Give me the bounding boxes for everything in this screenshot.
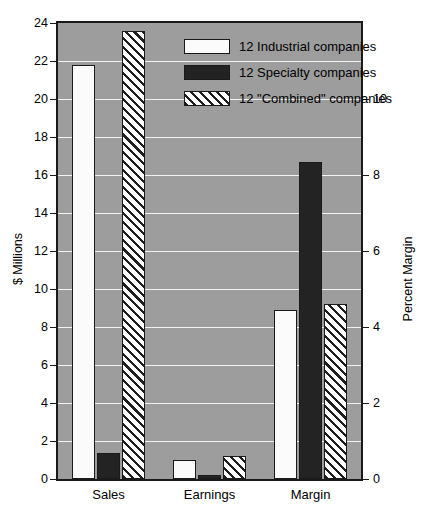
left-axis-tick-label: 2 <box>41 434 48 448</box>
right-axis-tick <box>363 251 369 252</box>
left-axis-tick-label: 24 <box>34 16 48 30</box>
category-label-margin: Margin <box>261 487 361 502</box>
left-axis-tick <box>50 327 56 328</box>
category-label-sales: Sales <box>59 487 159 502</box>
legend-swatch-specialty <box>184 65 230 80</box>
left-axis-tick-label: 4 <box>41 396 48 410</box>
right-axis-tick <box>363 479 369 480</box>
right-axis-tick-label: 2 <box>373 396 380 410</box>
left-axis-tick-label: 6 <box>41 358 48 372</box>
bar-chart: 024681012141618202224 0246810 $ Millions… <box>0 0 427 527</box>
legend-item-specialty: 12 Specialty companies <box>184 62 392 83</box>
bar-earnings-combined <box>223 456 246 479</box>
bar-sales-combined <box>122 31 145 479</box>
legend-label-specialty: 12 Specialty companies <box>239 65 376 80</box>
left-axis-tick <box>50 289 56 290</box>
left-axis-tick <box>50 137 56 138</box>
right-axis-title: Percent Margin <box>401 219 415 339</box>
legend-item-industrial: 12 Industrial companies <box>184 36 392 57</box>
chart-legend: 12 Industrial companies12 Specialty comp… <box>184 36 392 114</box>
right-axis-tick <box>363 403 369 404</box>
bar-earnings-industrial <box>173 460 196 479</box>
left-axis-tick-label: 22 <box>34 54 48 68</box>
legend-label-combined: 12 "Combined" companies <box>239 91 392 106</box>
left-axis-tick <box>50 99 56 100</box>
left-axis-title: $ Millions <box>11 199 25 319</box>
right-axis-tick <box>363 327 369 328</box>
right-axis-tick-label: 4 <box>373 320 380 334</box>
bar-earnings-specialty <box>198 475 221 479</box>
bar-margin-combined <box>324 304 347 479</box>
bar-margin-industrial <box>274 310 297 479</box>
left-axis-tick-label: 20 <box>34 92 48 106</box>
left-axis-tick-label: 10 <box>34 282 48 296</box>
left-axis-tick <box>50 213 56 214</box>
left-axis-tick <box>50 251 56 252</box>
left-axis-tick <box>50 441 56 442</box>
legend-label-industrial: 12 Industrial companies <box>239 39 376 54</box>
left-axis-tick <box>50 479 56 480</box>
bar-margin-specialty <box>299 162 322 479</box>
right-axis-tick-label: 6 <box>373 244 380 258</box>
bar-sales-industrial <box>72 65 95 479</box>
legend-swatch-combined <box>184 91 230 106</box>
left-axis-tick-label: 8 <box>41 320 48 334</box>
left-axis-tick <box>50 61 56 62</box>
left-axis-tick-label: 14 <box>34 206 48 220</box>
left-axis-tick-label: 0 <box>41 472 48 486</box>
left-axis-tick <box>50 23 56 24</box>
legend-swatch-industrial <box>184 39 230 54</box>
left-axis-tick-label: 16 <box>34 168 48 182</box>
left-axis-tick <box>50 365 56 366</box>
left-axis-tick-label: 18 <box>34 130 48 144</box>
category-label-earnings: Earnings <box>160 487 260 502</box>
left-axis-tick <box>50 403 56 404</box>
right-axis-tick-label: 0 <box>373 472 380 486</box>
right-axis-tick-label: 8 <box>373 168 380 182</box>
gridline <box>58 137 361 138</box>
bar-sales-specialty <box>97 453 120 479</box>
left-axis-tick <box>50 175 56 176</box>
right-axis-tick <box>363 175 369 176</box>
legend-item-combined: 12 "Combined" companies <box>184 88 392 109</box>
left-axis-tick-label: 12 <box>34 244 48 258</box>
